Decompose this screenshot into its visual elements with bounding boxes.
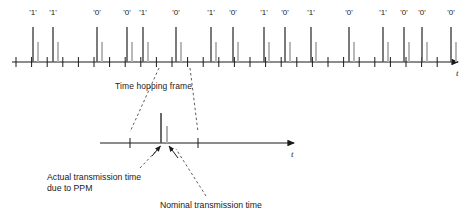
bit-label: '0' xyxy=(400,8,408,17)
bit-label: '1' xyxy=(139,8,147,17)
upper-axis-label: t xyxy=(456,68,459,78)
bit-label: '1' xyxy=(307,8,315,17)
bit-label: '0' xyxy=(123,8,131,17)
bit-label: '0' xyxy=(172,8,180,17)
bit-label: '0' xyxy=(229,8,237,17)
bit-label: '0' xyxy=(345,8,353,17)
bit-label: '0' xyxy=(418,8,426,17)
frame-expansion-line-right xyxy=(190,68,198,132)
bit-label: '1' xyxy=(49,8,57,17)
nominal-time-leader xyxy=(176,149,206,196)
nominal-time-arrow xyxy=(169,146,178,158)
bit-label: '1' xyxy=(207,8,215,17)
actual-time-arrow xyxy=(152,146,161,156)
bit-label: '0' xyxy=(93,8,101,17)
bit-label: '1' xyxy=(29,8,37,17)
bit-label: '0' xyxy=(281,8,289,17)
figure-canvas: '1''1''0''0''1''0''1''0''1''0''1''0''1''… xyxy=(0,0,466,221)
nominal-transmission-time-label: Nominal transmission time xyxy=(160,200,262,211)
lower-axis-label: t xyxy=(291,149,294,159)
upper-pulse-train xyxy=(12,27,458,67)
bit-label: '1' xyxy=(379,8,387,17)
frame-expansion-line-left xyxy=(130,68,159,132)
bit-label: '1' xyxy=(260,8,268,17)
lower-detail-frame xyxy=(100,113,294,148)
actual-transmission-time-label: Actual transmission time due to PPM xyxy=(47,172,141,193)
bit-label: '0' xyxy=(447,8,455,17)
time-hopping-frame-label: Time hopping frame xyxy=(115,81,192,91)
